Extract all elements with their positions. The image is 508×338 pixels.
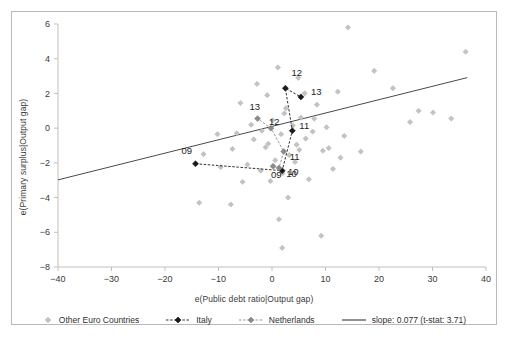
data-point-marker <box>342 133 347 138</box>
y-axis-title: e(Primary surplus|Output gap) <box>18 67 28 247</box>
data-point-label: 12 <box>291 67 302 78</box>
y-axis-tick-label: −2 <box>40 158 50 168</box>
data-point-marker <box>278 132 283 137</box>
x-axis-tick-label: 20 <box>374 274 384 284</box>
data-point-label: 09 <box>271 169 282 180</box>
data-point-marker <box>390 86 395 91</box>
data-point-marker <box>282 85 288 91</box>
data-point-marker <box>294 142 299 147</box>
data-point-marker <box>449 116 454 121</box>
legend-marker-icon <box>165 315 191 325</box>
data-point-label: 12 <box>269 116 280 127</box>
data-point-marker <box>255 116 261 122</box>
data-point-marker <box>280 245 285 250</box>
data-point-marker <box>201 152 206 157</box>
legend-item-label: Italy <box>196 315 212 325</box>
data-point-marker <box>320 148 325 153</box>
data-point-marker <box>230 146 235 151</box>
data-point-marker <box>245 162 250 167</box>
data-point-marker <box>285 195 290 200</box>
series-other-euro-countries <box>197 25 469 251</box>
y-axis-tick-label: 4 <box>45 54 50 64</box>
data-point-label: 11 <box>299 120 309 131</box>
data-point-marker <box>306 177 311 182</box>
y-axis-tick-label: 2 <box>45 89 50 99</box>
data-point-marker <box>345 25 350 30</box>
data-point-label: 13 <box>311 86 322 97</box>
y-axis-tick-label: −8 <box>40 262 50 272</box>
legend-marker-icon <box>341 315 367 325</box>
data-point-marker <box>215 132 220 137</box>
series-connector-line <box>195 88 300 170</box>
data-point-marker <box>407 119 412 124</box>
data-point-marker <box>282 111 287 116</box>
data-point-marker <box>289 128 295 134</box>
legend-item-label: Netherlands <box>269 315 315 325</box>
data-point-marker <box>358 149 363 154</box>
data-point-marker <box>238 100 243 105</box>
data-point-marker <box>248 317 254 323</box>
legend-marker-icon <box>238 315 264 325</box>
scatter-plot: −8−6−4−20246−40−30−20−100102030400910111… <box>12 12 498 326</box>
x-axis-tick-label: 0 <box>269 274 274 284</box>
legend-item-netherlands[interactable]: Netherlands <box>238 315 315 325</box>
data-point-marker <box>275 65 280 70</box>
x-axis-tick-label: −40 <box>50 274 65 284</box>
data-point-marker <box>240 179 245 184</box>
data-point-marker <box>228 202 233 207</box>
x-axis-tick-label: −30 <box>104 274 119 284</box>
data-point-marker <box>249 122 254 127</box>
data-point-marker <box>326 146 331 151</box>
data-point-marker <box>302 91 307 96</box>
data-point-marker <box>45 317 51 323</box>
y-axis-tick-label: 0 <box>45 123 50 133</box>
legend-item-slope[interactable]: slope: 0.077 (t-stat: 3.71) <box>341 315 467 325</box>
x-axis-tick-label: 30 <box>427 274 437 284</box>
data-point-label: 09 <box>181 145 192 156</box>
legend-item-label: slope: 0.077 (t-stat: 3.71) <box>372 315 467 325</box>
y-axis-tick-label: 6 <box>45 19 50 29</box>
data-point-marker <box>197 200 202 205</box>
legend-item-label: Other Euro Countries <box>59 315 139 325</box>
data-point-marker <box>463 49 468 54</box>
data-point-label: 13 <box>250 101 261 112</box>
data-point-marker <box>283 106 288 111</box>
y-axis-tick-label: −6 <box>40 227 50 237</box>
chart-frame: −8−6−4−20246−40−30−20−100102030400910111… <box>11 11 497 325</box>
data-point-marker <box>175 317 181 323</box>
data-point-marker <box>281 149 287 155</box>
data-point-marker <box>335 89 340 94</box>
chart-legend: Other Euro CountriesItalyNetherlandsslop… <box>12 309 496 331</box>
x-axis-tick-label: 40 <box>481 274 491 284</box>
data-point-marker <box>254 81 259 86</box>
data-point-marker <box>319 233 324 238</box>
data-point-marker <box>273 158 278 163</box>
data-point-marker <box>338 155 343 160</box>
x-axis-tick-label: 10 <box>320 274 330 284</box>
data-point-marker <box>330 166 335 171</box>
legend-item-italy[interactable]: Italy <box>165 315 212 325</box>
x-axis-tick-label: −20 <box>157 274 172 284</box>
data-point-marker <box>314 102 319 107</box>
data-point-marker <box>416 108 421 113</box>
legend-item-other[interactable]: Other Euro Countries <box>42 315 139 325</box>
chart-screenshot: −8−6−4−20246−40−30−20−100102030400910111… <box>0 0 508 338</box>
data-point-marker <box>265 93 270 98</box>
data-point-marker <box>372 68 377 73</box>
data-point-marker <box>310 129 315 134</box>
data-point-label: 11 <box>290 151 300 162</box>
x-axis-title: e(Public debt ratio|Output gap) <box>12 294 496 304</box>
x-axis-tick-label: −10 <box>211 274 226 284</box>
data-point-marker <box>251 137 256 142</box>
data-point-label: 10 <box>288 166 299 177</box>
y-axis-tick-label: −4 <box>40 193 50 203</box>
data-point-marker <box>192 161 198 167</box>
data-point-marker <box>430 110 435 115</box>
data-point-marker <box>324 125 329 130</box>
legend-marker-icon <box>42 315 54 325</box>
data-point-marker <box>276 217 281 222</box>
data-point-marker <box>303 136 308 141</box>
